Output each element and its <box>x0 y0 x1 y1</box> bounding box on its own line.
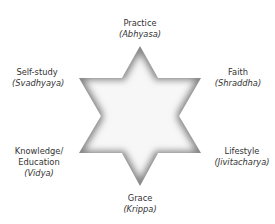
label-self-study-name: Self-study <box>12 67 62 78</box>
label-faith-name: Faith <box>213 67 263 78</box>
label-faith-sanskrit: (Shraddha) <box>213 78 263 89</box>
label-self-study: Self-study (Svadhyaya) <box>12 67 62 89</box>
six-pointed-star <box>79 46 201 186</box>
label-lifestyle: Lifestyle (Jivitacharya) <box>211 146 273 168</box>
label-knowledge: Knowledge/ Education (Vidya) <box>10 146 68 179</box>
label-knowledge-name-line1: Knowledge/ <box>10 146 68 157</box>
label-knowledge-name-line2: Education <box>10 157 68 168</box>
label-grace: Grace (Krippa) <box>120 193 160 215</box>
label-self-study-sanskrit: (Svadhyaya) <box>12 78 62 89</box>
label-lifestyle-name: Lifestyle <box>211 146 273 157</box>
label-practice-sanskrit: (Abhyasa) <box>118 29 162 40</box>
label-practice: Practice (Abhyasa) <box>118 18 162 40</box>
label-practice-name: Practice <box>118 18 162 29</box>
label-grace-sanskrit: (Krippa) <box>120 204 160 215</box>
label-grace-name: Grace <box>120 193 160 204</box>
label-faith: Faith (Shraddha) <box>213 67 263 89</box>
label-knowledge-sanskrit: (Vidya) <box>10 168 68 179</box>
label-lifestyle-sanskrit: (Jivitacharya) <box>211 157 273 168</box>
